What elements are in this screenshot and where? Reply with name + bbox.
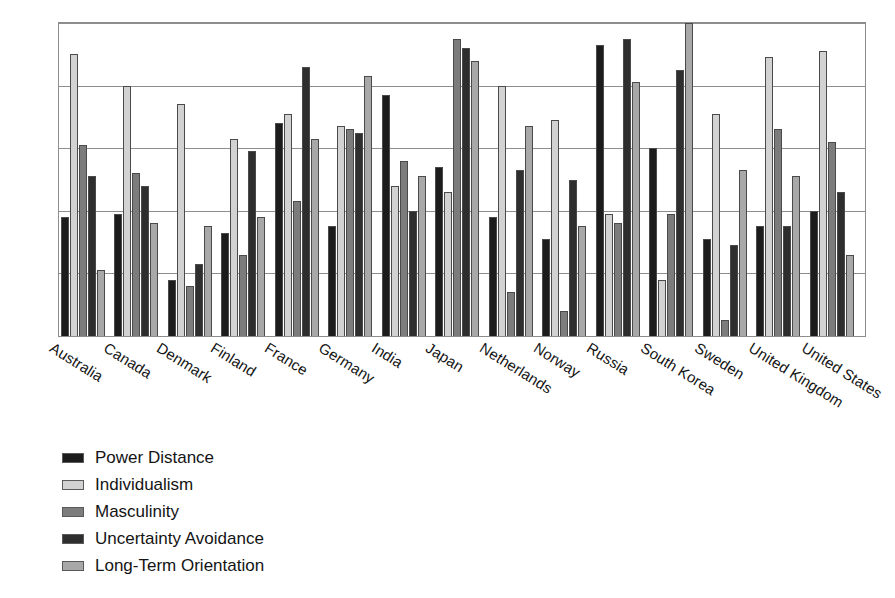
bar[interactable] [168,280,176,336]
bar-group [61,23,114,336]
bar[interactable] [739,170,747,336]
legend-label: Individualism [95,476,193,493]
bar[interactable] [569,180,577,337]
plot-area [59,23,865,336]
bar[interactable] [623,39,631,336]
legend-item[interactable]: Masculinity [62,498,482,525]
bar[interactable] [346,129,354,336]
bar[interactable] [632,82,640,336]
bar[interactable] [79,145,87,336]
bar[interactable] [204,226,212,336]
bar[interactable] [551,120,559,336]
bar[interactable] [765,57,773,336]
chart-legend: Power DistanceIndividualismMasculinityUn… [62,444,482,579]
bar[interactable] [676,70,684,336]
legend-item[interactable]: Uncertainty Avoidance [62,525,482,552]
bar[interactable] [248,151,256,336]
bar[interactable] [783,226,791,336]
bar[interactable] [88,176,96,336]
bar[interactable] [542,239,550,336]
x-axis-tick-labels: AustraliaCanadaDenmarkFinlandFranceGerma… [58,339,866,439]
legend-swatch-icon [62,534,84,544]
legend-swatch-icon [62,507,84,517]
x-tick-label: Denmark [154,339,215,386]
bar[interactable] [828,142,836,336]
bar[interactable] [596,45,604,336]
bar[interactable] [703,239,711,336]
bar[interactable] [391,186,399,336]
bar[interactable] [756,226,764,336]
bar[interactable] [337,126,345,336]
bar[interactable] [150,223,158,336]
bar-group [596,23,649,336]
bar[interactable] [792,176,800,336]
bar[interactable] [507,292,515,336]
bar[interactable] [489,217,497,336]
bar[interactable] [658,280,666,336]
bar[interactable] [239,255,247,336]
bar-group [435,23,488,336]
bar[interactable] [810,211,818,336]
bar[interactable] [846,255,854,336]
bar[interactable] [712,114,720,336]
bar[interactable] [721,320,729,336]
bar[interactable] [819,51,827,336]
bar[interactable] [462,48,470,336]
bar[interactable] [186,286,194,336]
bar[interactable] [525,126,533,336]
bar[interactable] [257,217,265,336]
x-tick-label: Germany [316,339,378,386]
bar[interactable] [435,167,443,336]
bar[interactable] [471,61,479,336]
bar-group [756,23,809,336]
bar[interactable] [221,233,229,336]
bar[interactable] [177,104,185,336]
bar[interactable] [293,201,301,336]
bar[interactable] [614,223,622,336]
bar[interactable] [328,226,336,336]
plot-frame [58,22,866,337]
bar[interactable] [302,67,310,336]
bar[interactable] [516,170,524,336]
bar[interactable] [311,139,319,336]
legend-label: Long-Term Orientation [95,557,264,574]
bar[interactable] [667,214,675,336]
hofstede-dimensions-chart: AustraliaCanadaDenmarkFinlandFranceGerma… [0,0,895,598]
bar[interactable] [382,95,390,336]
bar[interactable] [685,23,693,336]
legend-item[interactable]: Power Distance [62,444,482,471]
bar-group [489,23,542,336]
bar[interactable] [364,76,372,336]
bar[interactable] [61,217,69,336]
bar[interactable] [453,39,461,336]
bar[interactable] [141,186,149,336]
bar[interactable] [132,173,140,336]
bar[interactable] [195,264,203,336]
bar[interactable] [605,214,613,336]
bar[interactable] [649,148,657,336]
bar[interactable] [560,311,568,336]
bar[interactable] [275,123,283,336]
bar[interactable] [355,133,363,336]
x-tick-label: Australia [47,339,106,385]
bar[interactable] [284,114,292,336]
bar-group [221,23,274,336]
bar[interactable] [578,226,586,336]
bar[interactable] [70,54,78,336]
bar-group [542,23,595,336]
bar[interactable] [230,139,238,336]
bar[interactable] [114,214,122,336]
bar[interactable] [409,211,417,336]
bar[interactable] [123,86,131,336]
bar[interactable] [97,270,105,336]
bar[interactable] [400,161,408,336]
legend-item[interactable]: Individualism [62,471,482,498]
bar[interactable] [730,245,738,336]
bar[interactable] [774,129,782,336]
legend-item[interactable]: Long-Term Orientation [62,552,482,579]
bar[interactable] [837,192,845,336]
bar[interactable] [498,86,506,336]
bar[interactable] [418,176,426,336]
bar[interactable] [444,192,452,336]
gridline [59,336,865,337]
